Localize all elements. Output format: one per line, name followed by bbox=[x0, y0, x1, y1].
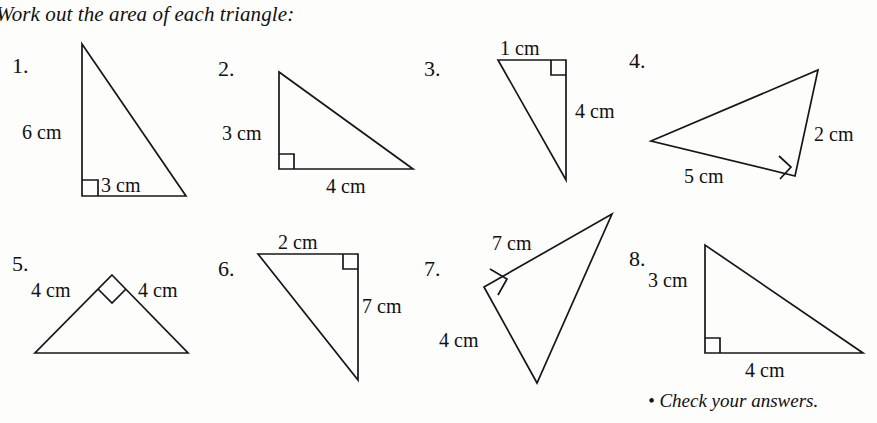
triangle-3 bbox=[498, 60, 566, 180]
right-angle-marker bbox=[490, 269, 507, 295]
page-title: Work out the area of each triangle: bbox=[0, 2, 294, 27]
side-label: 2 cm bbox=[814, 124, 853, 144]
triangle-2 bbox=[279, 72, 413, 169]
right-angle-marker bbox=[779, 156, 791, 179]
triangle-outline bbox=[258, 254, 358, 380]
right-angle-marker bbox=[98, 289, 126, 303]
side-label: 3 cm bbox=[648, 270, 687, 290]
question-number-5: 5. bbox=[12, 253, 29, 275]
triangle-8 bbox=[705, 245, 863, 353]
triangle-4 bbox=[651, 70, 818, 179]
check-answers-note: • Check your answers. bbox=[648, 390, 818, 412]
triangle-outline bbox=[498, 60, 566, 180]
triangle-outline bbox=[279, 72, 413, 169]
question-number-7: 7. bbox=[424, 258, 441, 280]
side-label: 2 cm bbox=[278, 232, 317, 252]
right-angle-marker bbox=[705, 338, 720, 353]
side-label: 4 cm bbox=[138, 280, 177, 300]
triangle-6 bbox=[258, 254, 358, 380]
side-label: 4 cm bbox=[31, 280, 70, 300]
side-label: 3 cm bbox=[222, 123, 261, 143]
right-angle-marker bbox=[82, 180, 98, 196]
question-number-8: 8. bbox=[629, 248, 646, 270]
side-label: 6 cm bbox=[22, 122, 61, 142]
side-label: 7 cm bbox=[492, 233, 531, 253]
side-label: 5 cm bbox=[684, 166, 723, 186]
side-label: 1 cm bbox=[500, 38, 539, 58]
side-label: 3 cm bbox=[101, 175, 140, 195]
side-label: 4 cm bbox=[745, 360, 784, 380]
question-number-1: 1. bbox=[12, 55, 29, 77]
side-label: 7 cm bbox=[362, 296, 401, 316]
side-label: 4 cm bbox=[326, 176, 365, 196]
triangle-outline bbox=[705, 245, 863, 353]
right-angle-marker bbox=[279, 154, 294, 169]
right-angle-marker bbox=[343, 254, 358, 269]
question-number-3: 3. bbox=[424, 58, 441, 80]
question-number-6: 6. bbox=[218, 258, 235, 280]
question-number-2: 2. bbox=[218, 58, 235, 80]
right-angle-marker bbox=[551, 60, 566, 75]
side-label: 4 cm bbox=[575, 101, 614, 121]
question-number-4: 4. bbox=[629, 50, 646, 72]
worksheet-page: Work out the area of each triangle: 1.6 … bbox=[0, 0, 877, 423]
side-label: 4 cm bbox=[439, 330, 478, 350]
triangle-outline bbox=[651, 70, 818, 176]
